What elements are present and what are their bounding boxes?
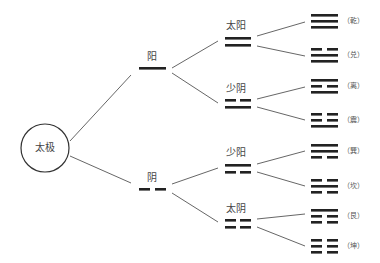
trigram-dui-label: （兑）: [343, 51, 364, 60]
yin-line-left: [139, 188, 150, 191]
eight-trigrams-lines: [311, 14, 338, 254]
connectors: [70, 22, 305, 246]
yin-label: 阴: [147, 172, 157, 184]
yang-line: [139, 67, 166, 70]
trigram-kan-label: （坎）: [343, 182, 364, 191]
yin-line-right: [155, 188, 166, 191]
shaoyin-label: 少阴: [226, 83, 246, 95]
yang-label: 阳: [147, 51, 157, 63]
diagram-canvas: [0, 0, 380, 263]
trigram-zhen-label: （震）: [343, 116, 364, 125]
taiyang-label: 太阳: [226, 20, 246, 32]
taiyin-label: 太阴: [226, 203, 246, 215]
shaoyang-label: 少阳: [226, 147, 246, 159]
trigram-xun-label: （巽）: [343, 147, 364, 156]
trigram-kun-label: （坤）: [343, 242, 364, 251]
trigram-gen-label: （艮）: [343, 212, 364, 221]
taiji-label: 太极: [35, 142, 55, 154]
four-images-lines: [225, 37, 251, 229]
trigram-qian-label: （乾）: [343, 17, 364, 26]
trigram-li-label: （离）: [343, 82, 364, 91]
